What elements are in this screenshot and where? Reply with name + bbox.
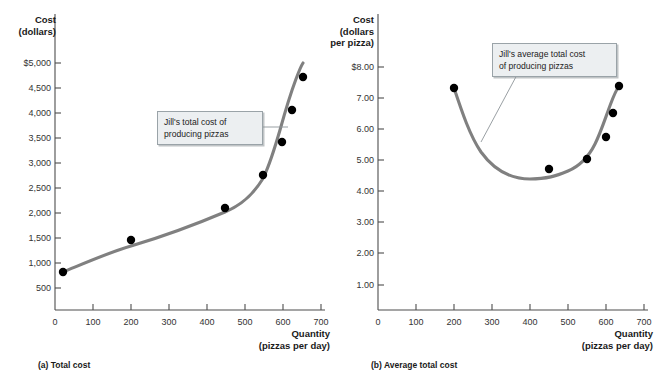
panel-b-xtick-100: 100 xyxy=(401,317,431,327)
panel-b-xtick-400: 400 xyxy=(515,317,545,327)
panel-b-ytick-1: 1.00 xyxy=(325,280,374,290)
panel-b-y-axis-title-line3: per pizza) xyxy=(318,37,374,49)
panel-b-y-axis-title-line1: Cost xyxy=(318,14,374,26)
data-point xyxy=(602,133,610,141)
panel-b-data-points xyxy=(450,82,623,173)
panel-b-xtick-0: 0 xyxy=(363,317,393,327)
panel-b-ytick-3: 3.00 xyxy=(325,217,374,227)
panel-b-xtick-600: 600 xyxy=(591,317,621,327)
panel-b-y-ticks xyxy=(378,67,384,285)
panel-b-x-axis-title-line1: Quantity xyxy=(523,328,653,340)
data-point xyxy=(615,82,623,90)
data-point xyxy=(450,84,458,92)
data-point xyxy=(545,165,553,173)
panel-b-ytick-6: 6.00 xyxy=(325,124,374,134)
panel-b-ytick-2: 2.00 xyxy=(325,248,374,258)
panel-b-xtick-700: 700 xyxy=(629,317,659,327)
panel-b-callout-average-total-cost: Jill's average total cost of producing p… xyxy=(492,43,617,77)
panel-b-y-axis-title: Cost (dollars per pizza) xyxy=(318,14,374,49)
panel-b-x-axis-title-line2: (pizzas per day) xyxy=(523,340,653,352)
panel-b-callout-line2: of producing pizzas xyxy=(499,60,610,72)
figure-panel-b: Cost (dollars per pizza) $8.00 7.00 6.00… xyxy=(0,0,669,380)
panel-b-ytick-7: 7.00 xyxy=(325,93,374,103)
panel-b-x-axis-title: Quantity (pizzas per day) xyxy=(523,328,653,351)
panel-b-ytick-8: $8.00 xyxy=(325,62,374,72)
panel-b-caption: (b) Average total cost xyxy=(371,360,457,370)
panel-b-callout-line1: Jill's average total cost xyxy=(499,48,610,60)
data-point xyxy=(609,109,617,117)
panel-b-ytick-4: 4.00 xyxy=(325,186,374,196)
panel-b-x-ticks xyxy=(416,304,644,310)
panel-b-y-axis-title-line2: (dollars xyxy=(318,26,374,38)
panel-b-xtick-200: 200 xyxy=(439,317,469,327)
panel-b-callout-leader xyxy=(481,73,518,142)
data-point xyxy=(583,155,591,163)
panel-b-ytick-5: 5.00 xyxy=(325,155,374,165)
panel-b-average-total-cost-curve xyxy=(454,86,619,179)
panel-b-xtick-500: 500 xyxy=(553,317,583,327)
panel-b-xtick-300: 300 xyxy=(477,317,507,327)
